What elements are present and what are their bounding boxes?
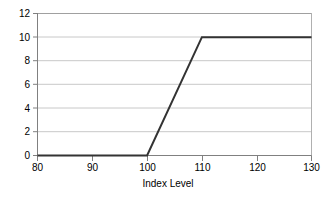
chart-container: 12 10 8 6 4 2 0 80 90 100 110 120 130 In… — [0, 0, 336, 198]
x-tick-label-110: 110 — [188, 162, 218, 173]
y-tick-label-12: 12 — [8, 8, 30, 19]
y-tick-label-8: 8 — [8, 55, 30, 66]
data-series-payoff — [38, 37, 312, 155]
x-axis-title: Index Level — [0, 178, 336, 190]
x-tick-label-130: 130 — [297, 162, 327, 173]
x-tick-label-80: 80 — [23, 162, 53, 173]
gridlines — [37, 14, 312, 132]
y-tick-label-6: 6 — [8, 79, 30, 90]
y-tick-label-10: 10 — [8, 32, 30, 43]
x-tick-label-90: 90 — [78, 162, 108, 173]
y-tick-label-0: 0 — [8, 150, 30, 161]
x-tick-label-120: 120 — [243, 162, 273, 173]
y-tick-label-4: 4 — [8, 103, 30, 114]
y-tick-label-2: 2 — [8, 126, 30, 137]
x-tick-label-100: 100 — [133, 162, 163, 173]
y-axis-ticks — [33, 14, 37, 156]
